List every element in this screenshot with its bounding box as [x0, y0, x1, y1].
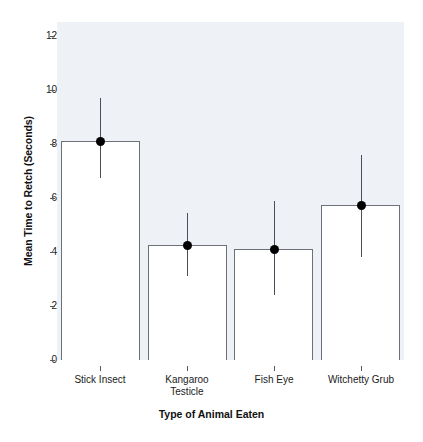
y-tick-mark [50, 306, 55, 307]
x-tick-mark [187, 366, 188, 371]
y-tick-mark [50, 144, 55, 145]
y-tick-mark [50, 36, 55, 37]
mean-point-3 [357, 201, 366, 210]
x-tick-mark [274, 366, 275, 371]
y-tick-mark [50, 252, 55, 253]
y-tick-mark [50, 198, 55, 199]
x-tick-label-3: Witchetty Grub [301, 374, 421, 386]
x-tick-mark [361, 366, 362, 371]
x-tick-label-line: Testicle [127, 386, 247, 398]
x-tick-label-line: Witchetty Grub [301, 374, 421, 386]
chart-figure: Mean Time to Retch (Seconds) 024681012 S… [0, 0, 423, 442]
y-tick-mark [50, 90, 55, 91]
x-tick-mark [100, 366, 101, 371]
y-tick-mark [50, 360, 55, 361]
x-axis-title: Type of Animal Eaten [0, 408, 423, 420]
